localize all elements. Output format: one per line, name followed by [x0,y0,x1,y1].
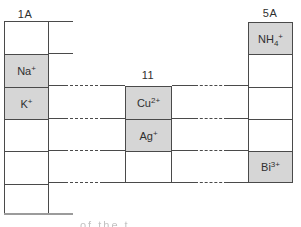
cell-5a-row2-empty [249,54,292,87]
rowline-dashed [65,118,103,119]
cell-1a-row5-empty [5,151,48,184]
rowline-solid [227,182,248,183]
rowline-dashed [195,85,227,86]
cell-1a-row4-empty [5,119,48,151]
cell-bi: Bi3+ [249,151,292,182]
ion-na-label: Na+ [17,65,36,77]
group-label-11: 11 [133,69,163,81]
rowline-dashed [65,85,103,86]
rowline-solid [49,182,65,183]
rowline-dashed [195,150,227,151]
cell-nh4: NH4+ [249,23,292,54]
row2-top-stub-line [49,53,73,54]
cell-na: Na+ [5,54,48,87]
rowline-solid [49,150,65,151]
rowline-solid [103,85,125,86]
rowline-solid [172,85,195,86]
rowline-solid [227,85,248,86]
rowline-dashed [195,182,227,183]
rowline-solid [172,182,195,183]
ion-bi-label: Bi3+ [261,161,280,173]
cell-cu: Cu2+ [126,87,171,119]
bottom-shadow-line [4,213,73,215]
ion-cu-label: Cu2+ [137,97,160,109]
column-1a: Na+ K+ [4,21,49,213]
cell-11-row3-empty [126,151,171,182]
rowline-solid [49,118,65,119]
rowline-solid [172,118,195,119]
rowline-solid [49,85,65,86]
group-label-1a: 1A [10,8,40,20]
rowline-solid [103,182,125,183]
cell-k: K+ [5,87,48,119]
ion-nh4-label: NH4+ [258,33,283,45]
rowline-solid [103,118,125,119]
rowline-solid [172,150,195,151]
group-label-5a: 5A [255,7,285,19]
cell-5a-row4-empty [249,119,292,151]
ion-k-label: K+ [20,98,32,110]
rowline-solid [227,150,248,151]
rowline-dashed [195,118,227,119]
rowline-solid [227,118,248,119]
periodic-table-ions-diagram: 1A 11 5A Na+ K+ Cu2+ Ag+ NH4+ Bi3+ [0,0,301,227]
cell-1a-row6-empty [5,184,48,213]
rowline-solid [103,150,125,151]
rowline-dashed [65,182,103,183]
cell-5a-row3-empty [249,87,292,119]
rowline-dashed [65,150,103,151]
cell-ag: Ag+ [126,119,171,151]
cell-1a-row1-empty [5,22,48,54]
column-11: Cu2+ Ag+ [125,86,172,183]
row1-top-stub-line [49,21,73,22]
caption-fragment: of the t [80,219,210,227]
ion-ag-label: Ag+ [139,130,157,142]
column-5a: NH4+ Bi3+ [248,22,293,183]
